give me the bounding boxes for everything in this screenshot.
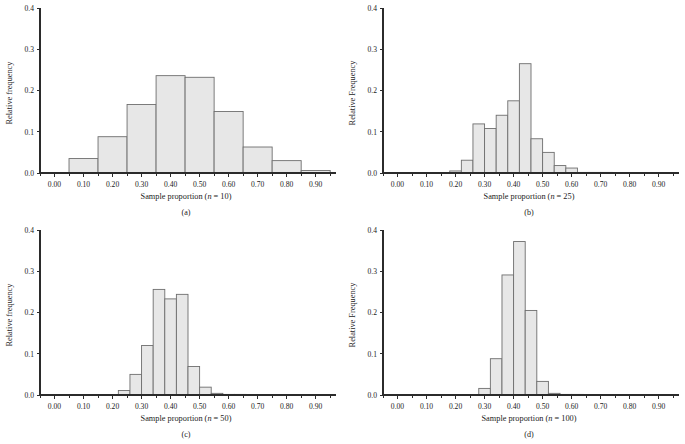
panel-a: 0.000.100.200.300.400.500.600.700.800.90… (0, 0, 342, 222)
x-tick-label: 0.60 (565, 402, 578, 411)
histogram-bar (502, 275, 514, 395)
panel-a-xlabel: Sample proportion (n = 10) (141, 192, 232, 201)
x-tick-label: 0.40 (507, 180, 520, 189)
panel-c-letter: (c) (182, 430, 191, 439)
panel-b-xlabel: Sample proportion (n = 25) (484, 192, 575, 201)
histogram-bar (98, 137, 127, 173)
x-tick-label: 0.20 (106, 402, 119, 411)
x-tick-label: 0.20 (106, 180, 119, 189)
panel-c-ylabel: Relative frequency (5, 283, 14, 347)
histogram-bar (479, 388, 491, 395)
panel-d-plot: 0.000.100.200.300.400.500.600.700.800.90… (343, 222, 685, 444)
histogram-bar (142, 346, 154, 396)
panel-d-xlabel: Sample proportion (n = 100) (481, 414, 576, 423)
panel-a-ylabel: Relative frequency (5, 61, 14, 125)
histogram-bar (156, 76, 185, 173)
y-tick-label: 0.0 (25, 169, 35, 178)
histogram-bar (473, 124, 485, 173)
y-tick-label: 0.0 (25, 391, 35, 400)
x-tick-label: 0.70 (594, 402, 607, 411)
panel-b-bars (450, 64, 613, 173)
y-tick-label: 0.3 (368, 45, 378, 54)
x-tick-label: 0.30 (478, 180, 491, 189)
x-tick-label: 0.00 (48, 402, 61, 411)
histogram-bar (496, 115, 508, 173)
panel-b-letter: (b) (524, 208, 534, 217)
histogram-bar (537, 381, 549, 395)
x-tick-label: 0.80 (623, 402, 636, 411)
y-tick-label: 0.2 (25, 86, 35, 95)
x-tick-label: 0.90 (652, 402, 665, 411)
panel-a-yticklabels: 0.00.10.20.30.4 (25, 4, 35, 178)
x-tick-label: 0.80 (280, 180, 293, 189)
x-tick-label: 0.10 (420, 180, 433, 189)
panel-c: 0.000.100.200.300.400.500.600.700.800.90… (0, 222, 342, 444)
x-tick-label: 0.70 (251, 180, 264, 189)
x-tick-label: 0.90 (309, 180, 322, 189)
panel-a-bars (69, 76, 330, 173)
panel-c-xticklabels: 0.000.100.200.300.400.500.600.700.800.90 (48, 402, 323, 411)
y-tick-label: 0.2 (368, 308, 378, 317)
y-tick-label: 0.1 (368, 128, 378, 137)
y-tick-label: 0.3 (25, 45, 35, 54)
panel-c-xlabel: Sample proportion (n = 50) (141, 414, 232, 423)
x-tick-label: 0.30 (478, 402, 491, 411)
histogram-bar (508, 101, 520, 173)
panel-a-plot: 0.000.100.200.300.400.500.600.700.800.90… (0, 0, 342, 222)
panel-b-xticklabels: 0.000.100.200.300.400.500.600.700.800.90 (391, 180, 666, 189)
y-tick-label: 0.0 (368, 391, 378, 400)
x-tick-label: 0.40 (507, 402, 520, 411)
x-tick-label: 0.40 (164, 180, 177, 189)
x-tick-label: 0.30 (135, 180, 148, 189)
histogram-bar (519, 64, 531, 173)
histogram-bar (566, 168, 578, 173)
histogram-bar (243, 147, 272, 173)
histogram-bar (554, 166, 566, 173)
panel-d-xticklabels: 0.000.100.200.300.400.500.600.700.800.90 (391, 402, 666, 411)
histogram-bar (127, 105, 156, 173)
y-tick-label: 0.3 (368, 267, 378, 276)
histogram-bar (272, 161, 301, 173)
x-tick-label: 0.10 (77, 180, 90, 189)
panel-b-plot: 0.000.100.200.300.400.500.600.700.800.90… (343, 0, 685, 222)
histogram-bar (485, 128, 497, 173)
histogram-bar (200, 387, 212, 395)
panel-b-ylabel: Relative Frequency (348, 60, 357, 126)
histogram-bar (185, 77, 214, 173)
histogram-bar (461, 160, 473, 173)
histogram-bar (490, 359, 502, 395)
panel-a-xticklabels: 0.000.100.200.300.400.500.600.700.800.90 (48, 180, 323, 189)
panel-d-letter: (d) (524, 430, 534, 439)
x-tick-label: 0.00 (391, 180, 404, 189)
x-tick-label: 0.80 (623, 180, 636, 189)
panel-b: 0.000.100.200.300.400.500.600.700.800.90… (343, 0, 685, 222)
x-tick-label: 0.10 (420, 402, 433, 411)
x-tick-label: 0.20 (449, 402, 462, 411)
x-tick-label: 0.10 (77, 402, 90, 411)
y-tick-label: 0.2 (25, 308, 35, 317)
x-tick-label: 0.90 (652, 180, 665, 189)
panel-c-plot: 0.000.100.200.300.400.500.600.700.800.90… (0, 222, 342, 444)
y-tick-label: 0.2 (368, 86, 378, 95)
x-tick-label: 0.50 (536, 402, 549, 411)
histogram-bar (176, 294, 188, 395)
histogram-bar (525, 310, 537, 395)
panel-b-yticklabels: 0.00.10.20.30.4 (368, 4, 378, 178)
histogram-bar (514, 242, 526, 395)
x-tick-label: 0.30 (135, 402, 148, 411)
histogram-bar (531, 139, 543, 173)
x-tick-label: 0.00 (391, 402, 404, 411)
y-tick-label: 0.1 (368, 350, 378, 359)
histogram-bar (153, 289, 165, 395)
y-tick-label: 0.3 (25, 267, 35, 276)
y-tick-label: 0.1 (25, 128, 35, 137)
y-tick-label: 0.1 (25, 350, 35, 359)
histogram-bar (188, 367, 200, 395)
y-tick-label: 0.4 (25, 226, 35, 235)
panel-d-ylabel: Relative Frequency (348, 282, 357, 348)
y-tick-label: 0.4 (368, 4, 378, 13)
x-tick-label: 0.60 (222, 402, 235, 411)
x-tick-label: 0.60 (565, 180, 578, 189)
panel-a-letter: (a) (182, 208, 191, 217)
x-tick-label: 0.50 (193, 402, 206, 411)
